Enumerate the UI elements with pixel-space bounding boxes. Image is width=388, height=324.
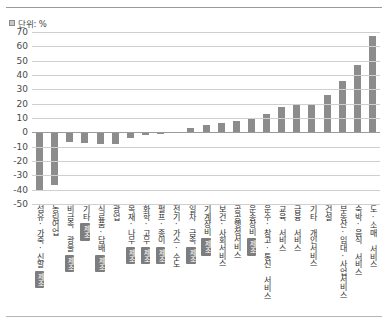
x-axis-label: 금융 서비스 (290, 205, 303, 252)
bar (233, 121, 240, 132)
manufacturing-badge: 제조 (186, 247, 195, 264)
x-axis-label: 광업 (109, 205, 122, 220)
x-axis-label: 공공행정서비스 (230, 205, 243, 258)
x-axis-label: 목재·나무제조 (124, 205, 137, 264)
gridline (32, 32, 380, 33)
x-axis-label-text: 섬유·가죽·신발 (35, 205, 43, 268)
x-axis-label-text: 건설 (323, 205, 331, 220)
y-axis-tick: 60 (17, 42, 28, 51)
x-axis-label-text: 화학·고무 (141, 205, 149, 244)
x-axis-label: 도·소매 서비스 (366, 205, 379, 268)
x-axis-label: 숙박·음식 서비스 (351, 205, 364, 275)
bar (278, 107, 285, 132)
manufacturing-badge: 제조 (65, 255, 74, 272)
x-axis-label: 비금속 광물제조 (63, 205, 76, 272)
x-axis-label: 교육 서비스 (275, 205, 288, 252)
bar (51, 132, 58, 185)
x-axis-label-text: 전기·가스·수도 (172, 205, 180, 268)
y-axis-tick: -20 (13, 157, 28, 166)
manufacturing-badge: 제조 (35, 271, 44, 288)
zero-axis-line (32, 132, 380, 133)
gridline (32, 89, 380, 90)
bottom-divider (6, 316, 382, 317)
y-axis-tick: -50 (13, 200, 28, 209)
x-axis-label-text: 도·소매 서비스 (368, 205, 376, 268)
x-axis-label-text: 기타 (81, 205, 89, 220)
chart-figure: 단위: % 706050403020100-10-20-30-40-50 섬유·… (0, 0, 388, 324)
gridline (32, 161, 380, 162)
x-axis-label: 식료품·담배제조 (94, 205, 107, 272)
y-axis-tick: 10 (17, 114, 28, 123)
y-axis-tick: 20 (17, 99, 28, 108)
x-axis-label-text: 기타 개인서비스 (308, 205, 316, 267)
x-axis-label: 기계장비제조 (200, 205, 213, 256)
gridline (32, 46, 380, 47)
x-axis-label: 펄프·종이제조 (154, 205, 167, 264)
x-axis-label-text: 일차 금속 (187, 205, 195, 244)
bar (112, 132, 119, 143)
bar (97, 132, 104, 143)
bar (203, 125, 210, 132)
x-axis-label: 섬유·가죽·신발제조 (33, 205, 46, 288)
manufacturing-badge: 제조 (95, 255, 104, 272)
x-axis-label-text: 공공행정서비스 (232, 205, 240, 258)
manufacturing-badge: 제조 (80, 223, 89, 240)
manufacturing-badge: 제조 (156, 247, 165, 264)
y-axis-tick: 0 (22, 128, 28, 137)
bar (263, 114, 270, 133)
x-axis-label: 운수·창고·통신 서비스 (260, 205, 273, 299)
x-axis-label: 보건·사회서비스 (215, 205, 228, 267)
manufacturing-badge: 제조 (247, 238, 256, 255)
x-axis-label-text: 운송장비 (247, 205, 255, 235)
y-axis-tick: 50 (17, 56, 28, 65)
x-axis-label: 일차 금속제조 (184, 205, 197, 264)
unit-bullet-icon (9, 20, 15, 26)
x-axis-label-text: 비금속 광물 (66, 205, 74, 252)
bar (324, 95, 331, 132)
x-axis-label-text: 금융 서비스 (293, 205, 301, 252)
y-axis-tick: 70 (17, 28, 28, 37)
bar (81, 132, 88, 143)
gridline (32, 147, 380, 148)
x-axis-label-text: 교육 서비스 (277, 205, 285, 252)
x-axis-label: 농림어업 (48, 205, 61, 235)
bar (218, 123, 225, 132)
top-divider (6, 7, 382, 8)
gridline (32, 104, 380, 105)
y-axis-tick: -40 (13, 185, 28, 194)
gridline (32, 175, 380, 176)
x-axis-label: 부동산·임대·사업서비스 (336, 205, 349, 298)
x-axis-label-text: 펄프·종이 (156, 205, 164, 244)
x-axis-label: 화학·고무제조 (139, 205, 152, 264)
x-axis-label-text: 부동산·임대·사업서비스 (338, 205, 346, 298)
gridline (32, 190, 380, 191)
y-axis-tick: 40 (17, 71, 28, 80)
bar (248, 119, 255, 132)
x-axis-label-text: 목재·나무 (126, 205, 134, 244)
y-axis-tick: -30 (13, 171, 28, 180)
manufacturing-badge: 제조 (126, 247, 135, 264)
x-axis-label: 건설 (321, 205, 334, 220)
gridline (32, 61, 380, 62)
plot-area: 706050403020100-10-20-30-40-50 (32, 32, 380, 204)
x-axis-label-text: 기계장비 (202, 205, 210, 235)
x-axis-label: 전기·가스·수도 (169, 205, 182, 268)
manufacturing-badge: 제조 (201, 238, 210, 255)
gridline (32, 75, 380, 76)
manufacturing-badge: 제조 (141, 247, 150, 264)
x-axis-labels: 섬유·가죽·신발제조농림어업비금속 광물제조기타제조식료품·담배제조광업목재·나… (32, 205, 380, 323)
x-axis-label: 운송장비제조 (245, 205, 258, 256)
x-axis-label-text: 숙박·음식 서비스 (353, 205, 361, 275)
bar (66, 132, 73, 142)
gridline (32, 118, 380, 119)
y-axis-tick: -10 (13, 142, 28, 151)
x-axis-label-text: 농림어업 (51, 205, 59, 235)
x-axis-label-text: 보건·사회서비스 (217, 205, 225, 267)
x-axis-label: 기타 개인서비스 (305, 205, 318, 267)
x-axis-label-text: 식료품·담배 (96, 205, 104, 252)
x-axis-label-text: 광업 (111, 205, 119, 220)
x-axis-label-text: 운수·창고·통신 서비스 (262, 205, 270, 299)
y-axis-tick: 30 (17, 85, 28, 94)
x-axis-label: 기타제조 (78, 205, 91, 241)
